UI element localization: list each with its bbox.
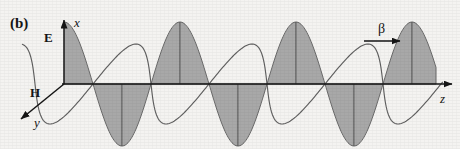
z-axis-label: z <box>440 92 445 105</box>
y-axis-label: y <box>34 116 40 129</box>
electromagnetic-wave-figure: (b) x z y E H β <box>0 0 460 149</box>
e-field-lobe <box>412 22 436 84</box>
x-axis-label: x <box>74 16 80 29</box>
e-field-label: E <box>44 31 53 44</box>
y-axis <box>21 84 64 119</box>
panel-label: (b) <box>10 16 28 31</box>
beta-label: β <box>378 22 385 36</box>
wave-diagram <box>0 0 460 149</box>
h-field-label: H <box>30 86 40 99</box>
